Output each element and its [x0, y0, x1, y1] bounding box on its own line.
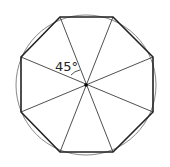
angle-label: 45°: [55, 59, 78, 74]
octagon-diagram: 45°: [0, 0, 170, 167]
center-point: [84, 83, 88, 87]
